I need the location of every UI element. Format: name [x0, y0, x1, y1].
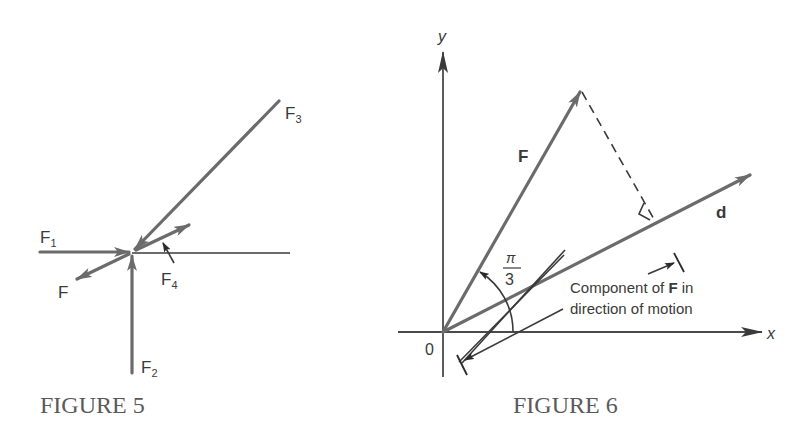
figure-5: F1 F2 F3 F4 F FIGURE 5: [40, 101, 302, 418]
vector-f4: [136, 225, 189, 250]
vector-f3: [135, 101, 279, 249]
label-f-resultant: F: [58, 283, 68, 302]
component-label-line-2: direction of motion: [570, 300, 693, 317]
label-x-axis: x: [766, 325, 776, 342]
vector-f-resultant: [77, 254, 129, 279]
component-arrow-back: [465, 309, 563, 360]
label-f1: F1: [40, 228, 57, 249]
label-f3: F3: [285, 104, 302, 125]
figure-5-caption: FIGURE 5: [40, 392, 145, 418]
label-force: F: [518, 147, 528, 166]
figures-canvas: F1 F2 F3 F4 F FIGURE 5 y x 0 F: [0, 0, 808, 437]
label-f4: F4: [161, 270, 178, 291]
label-direction: d: [716, 203, 726, 222]
component-tick-end: [674, 253, 684, 272]
label-f2: F2: [141, 358, 158, 379]
component-arrow-forward: [648, 263, 674, 274]
right-angle-mark: [639, 203, 650, 220]
angle-numerator: π: [506, 250, 516, 266]
label-y-axis: y: [437, 28, 447, 45]
component-label-line-1: Component of F in: [570, 279, 693, 296]
angle-label: π 3: [503, 250, 521, 288]
label-origin: 0: [425, 341, 434, 358]
figure-6-caption: FIGURE 6: [513, 392, 618, 418]
angle-denominator: 3: [505, 271, 514, 288]
figure-6: y x 0 F d π 3 Component of F in directio…: [398, 28, 776, 418]
projection-dashed-line: [582, 92, 655, 221]
